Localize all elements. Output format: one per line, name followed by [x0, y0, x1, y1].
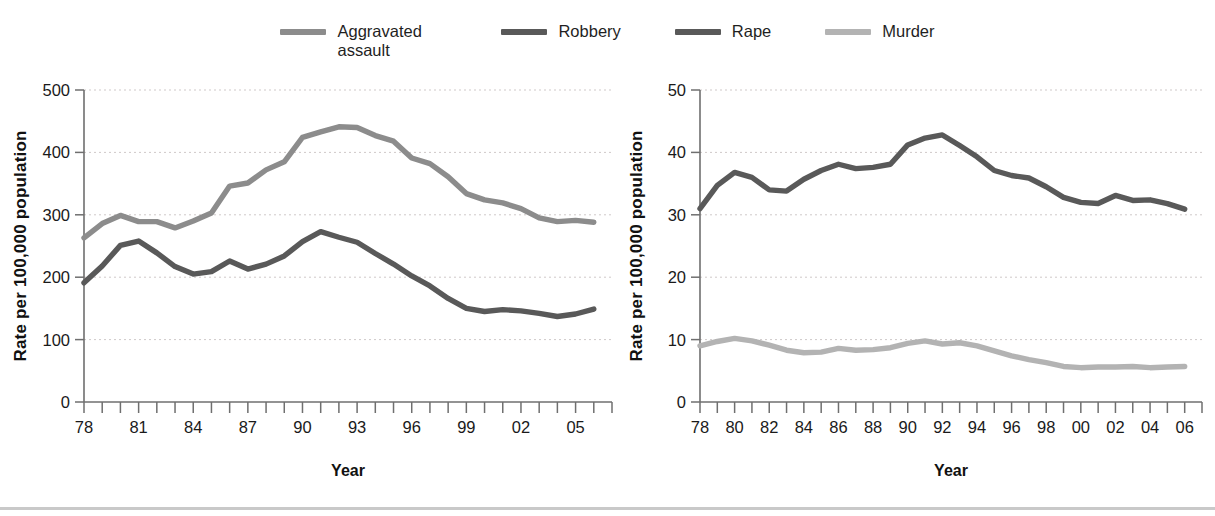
y-tick-label-20: 20 — [668, 268, 686, 286]
x-tick-label-1978: 78 — [75, 418, 93, 436]
x-tick-label-1990: 90 — [899, 418, 917, 436]
x-tick-label-1978: 78 — [691, 418, 709, 436]
x-tick-label-1998: 98 — [1037, 418, 1055, 436]
legend-item-rape[interactable]: Rape — [675, 22, 771, 41]
x-tick-label-2002: 02 — [1106, 418, 1124, 436]
x-tick-label-1984: 84 — [795, 418, 813, 436]
y-tick-label-40: 40 — [668, 143, 686, 161]
series-line-rape — [700, 135, 1185, 209]
y-tick-label-200: 200 — [42, 268, 70, 286]
y-axis-title: Rate per 100,000 population — [627, 130, 646, 361]
x-tick-label-2002: 02 — [512, 418, 530, 436]
series-line-aggravated-assault — [84, 127, 594, 238]
legend-item-murder[interactable]: Murder — [825, 22, 934, 41]
y-tick-label-0: 0 — [677, 393, 686, 411]
chart-svg-right: 0102030405078808284868890929496980002040… — [622, 72, 1212, 476]
x-tick-label-1992: 92 — [933, 418, 951, 436]
x-tick-label-1996: 96 — [403, 418, 421, 436]
series-line-murder — [700, 338, 1185, 367]
x-tick-label-2004: 04 — [1141, 418, 1159, 436]
legend-item-robbery[interactable]: Robbery — [501, 22, 620, 41]
chart-legend: Aggravated assaultRobberyRapeMurder — [0, 22, 1215, 60]
x-tick-label-1990: 90 — [293, 418, 311, 436]
x-tick-label-1981: 81 — [129, 418, 147, 436]
legend-label-robbery: Robbery — [558, 22, 620, 41]
legend-label-rape: Rape — [732, 22, 771, 41]
x-tick-label-1993: 93 — [348, 418, 366, 436]
y-tick-label-100: 100 — [42, 331, 70, 349]
legend-swatch-murder — [825, 29, 871, 35]
x-tick-label-1986: 86 — [829, 418, 847, 436]
y-axis-title: Rate per 100,000 population — [11, 130, 30, 361]
y-tick-label-500: 500 — [42, 81, 70, 99]
legend-swatch-rape — [675, 29, 721, 35]
figure-container: Aggravated assaultRobberyRapeMurder 0100… — [0, 0, 1215, 516]
x-tick-label-2005: 05 — [566, 418, 584, 436]
x-tick-label-1988: 88 — [864, 418, 882, 436]
x-tick-label-1996: 96 — [1002, 418, 1020, 436]
series-line-robbery — [84, 232, 594, 317]
x-tick-label-1984: 84 — [184, 418, 202, 436]
x-tick-label-1987: 87 — [239, 418, 257, 436]
bottom-divider — [0, 507, 1215, 510]
legend-label-aggravated_assault: Aggravated assault — [337, 22, 447, 60]
legend-swatch-aggravated_assault — [280, 29, 326, 35]
x-tick-label-1999: 99 — [457, 418, 475, 436]
x-tick-label-1980: 80 — [725, 418, 743, 436]
chart-svg-left: 010020030040050078818487909396990205Rate… — [6, 72, 622, 476]
chart-panel-right: 0102030405078808284868890929496980002040… — [622, 72, 1212, 476]
y-tick-label-10: 10 — [668, 331, 686, 349]
y-tick-label-0: 0 — [61, 393, 70, 411]
x-axis-title: Year — [331, 462, 365, 479]
y-tick-label-30: 30 — [668, 206, 686, 224]
legend-item-aggravated_assault[interactable]: Aggravated assault — [280, 22, 447, 60]
x-tick-label-2000: 00 — [1072, 418, 1090, 436]
legend-swatch-robbery — [501, 29, 547, 35]
y-tick-label-300: 300 — [42, 206, 70, 224]
chart-panel-left: 010020030040050078818487909396990205Rate… — [6, 72, 622, 476]
y-tick-label-50: 50 — [668, 81, 686, 99]
y-tick-label-400: 400 — [42, 143, 70, 161]
x-axis-title: Year — [934, 462, 968, 479]
x-tick-label-2006: 06 — [1176, 418, 1194, 436]
legend-label-murder: Murder — [882, 22, 934, 41]
x-tick-label-1982: 82 — [760, 418, 778, 436]
x-tick-label-1994: 94 — [968, 418, 986, 436]
